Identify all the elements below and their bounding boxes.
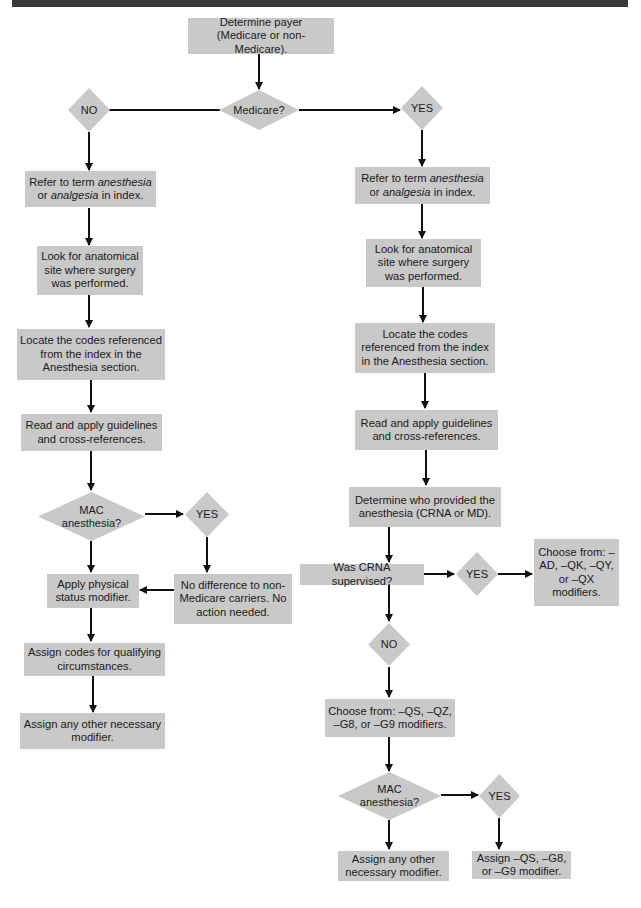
left-mac-yes: YES: [185, 492, 229, 537]
mac-line1: MAC: [377, 783, 401, 795]
left-read-text: Read and apply guidelines and cross-refe…: [24, 419, 159, 446]
left-decision-mac: MAC anesthesia?: [38, 492, 145, 541]
refer-pre: Refer to term: [361, 172, 429, 184]
left-assign-codes: Assign codes for qualifying circumstance…: [24, 643, 165, 676]
refer-em-anesthesia: anesthesia: [98, 176, 152, 188]
right-mac-yes: YES: [479, 774, 520, 818]
left-refer-text: Refer to term anesthesia or analgesia in…: [29, 176, 152, 203]
right-read-text: Read and apply guidelines and cross-refe…: [358, 417, 495, 444]
refer-mid: or: [38, 189, 51, 201]
mac-line1: MAC: [79, 504, 103, 516]
left-no-difference: No difference to non-Medicare carriers. …: [174, 574, 292, 624]
decision-medicare-label: Medicare?: [233, 104, 284, 117]
right-read-guidelines: Read and apply guidelines and cross-refe…: [355, 410, 498, 450]
refer-mid: or: [370, 186, 383, 198]
refer-post: in index.: [431, 186, 476, 198]
refer-em-anesthesia: anesthesia: [430, 172, 484, 184]
mac-line2: anesthesia?: [360, 796, 419, 808]
right-determine-provider: Determine who provided the anesthesia (C…: [349, 487, 501, 527]
right-look-anatomical: Look for anatomical site where surgery w…: [366, 239, 481, 287]
assign-codes-text: Assign codes for qualifying circumstance…: [27, 646, 162, 673]
right-look-text: Look for anatomical site where surgery w…: [369, 243, 478, 284]
right-refer-text: Refer to term anesthesia or analgesia in…: [361, 172, 484, 199]
determine-provider-text: Determine who provided the anesthesia (C…: [352, 494, 498, 521]
right-refer-term: Refer to term anesthesia or analgesia in…: [355, 167, 490, 204]
left-read-guidelines: Read and apply guidelines and cross-refe…: [21, 414, 162, 451]
left-locate-text: Locate the codes referenced from the ind…: [20, 334, 162, 375]
left-apply-physical: Apply physical status modifier.: [47, 574, 139, 608]
right-assign-other-text: Assign any other necessary modifier.: [341, 853, 446, 880]
refer-em-analgesia: analgesia: [383, 186, 431, 198]
yes-label: YES: [411, 102, 433, 115]
left-refer-term: Refer to term anesthesia or analgesia in…: [25, 171, 156, 207]
decision-no-left: NO: [68, 88, 110, 132]
refer-em-analgesia: analgesia: [51, 189, 99, 201]
left-look-text: Look for anatomical site where surgery w…: [40, 250, 140, 291]
crna-no-label: NO: [381, 638, 398, 651]
right-choose-ad-qk: Choose from: –AD, –QK, –QY, or –QX modif…: [534, 539, 619, 606]
assign-qs-text: Assign –QS, –G8, or –G9 modifier.: [475, 852, 568, 879]
left-mac-label: MAC anesthesia?: [62, 504, 121, 530]
left-locate-codes: Locate the codes referenced from the ind…: [17, 329, 165, 380]
mac-line2: anesthesia?: [62, 517, 121, 529]
choose-ad-text: Choose from: –AD, –QK, –QY, or –QX modif…: [537, 546, 616, 600]
right-assign-qs-g8: Assign –QS, –G8, or –G9 modifier.: [472, 851, 571, 879]
decision-yes-right: YES: [401, 86, 443, 130]
right-crna-supervised: Was CRNA supervised?: [300, 564, 424, 585]
refer-post: in index.: [99, 189, 144, 201]
flow-arrows: [0, 0, 641, 908]
start-line1: Determine payer: [220, 16, 303, 30]
choose-qs-text: Choose from: –QS, –QZ, –G8, or –G9 modif…: [328, 705, 452, 732]
right-choose-qs-qz: Choose from: –QS, –QZ, –G8, or –G9 modif…: [325, 699, 455, 737]
refer-pre: Refer to term: [29, 176, 97, 188]
left-assign-other: Assign any other necessary modifier.: [20, 713, 165, 749]
start-line2: (Medicare or non-Medicare).: [191, 29, 331, 56]
no-label: NO: [81, 104, 98, 117]
right-crna-yes: YES: [456, 552, 498, 596]
right-locate-text: Locate the codes referenced from the ind…: [358, 328, 492, 369]
apply-physical-text: Apply physical status modifier.: [50, 578, 136, 605]
right-decision-mac: MAC anesthesia?: [338, 772, 441, 820]
right-assign-other: Assign any other necessary modifier.: [338, 851, 449, 881]
crna-supervised-text: Was CRNA supervised?: [303, 561, 421, 588]
start-determine-payer: Determine payer (Medicare or non-Medicar…: [188, 18, 334, 54]
right-mac-yes-label: YES: [488, 790, 510, 803]
right-mac-label: MAC anesthesia?: [360, 783, 419, 809]
no-difference-text: No difference to non-Medicare carriers. …: [177, 579, 289, 620]
left-assign-other-text: Assign any other necessary modifier.: [23, 718, 162, 745]
left-look-anatomical: Look for anatomical site where surgery w…: [37, 246, 143, 295]
crna-yes-label: YES: [466, 568, 488, 581]
right-locate-codes: Locate the codes referenced from the ind…: [355, 323, 495, 373]
right-crna-no: NO: [368, 623, 410, 666]
left-mac-yes-label: YES: [196, 508, 218, 521]
decision-medicare: Medicare?: [219, 90, 299, 130]
